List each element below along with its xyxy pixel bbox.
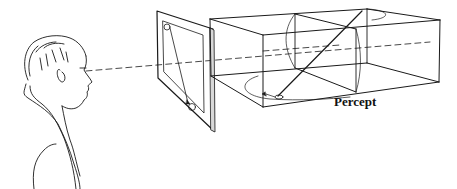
percept-diagram <box>0 0 457 189</box>
sight-line <box>86 42 430 71</box>
image-circle-top <box>164 24 170 30</box>
percept-box <box>210 9 440 107</box>
percept-label: Percept <box>334 94 376 110</box>
observer-figure <box>24 36 92 189</box>
picture-plane <box>157 11 215 132</box>
